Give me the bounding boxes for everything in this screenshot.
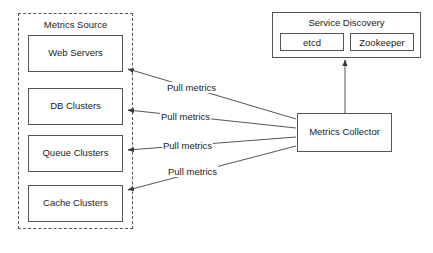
node-db-clusters[interactable]: DB Clusters xyxy=(28,88,123,125)
node-cache-clusters[interactable]: Cache Clusters xyxy=(28,185,123,222)
node-queue-clusters[interactable]: Queue Clusters xyxy=(28,135,123,172)
node-etcd[interactable]: etcd xyxy=(280,33,344,51)
diagram-canvas: Metrics Source Web Servers DB Clusters Q… xyxy=(0,0,433,253)
edge-label-pull-metrics-3: Pull metrics xyxy=(162,140,213,151)
node-web-servers-label: Web Servers xyxy=(48,48,103,58)
edge-label-pull-metrics-2: Pull metrics xyxy=(160,111,211,122)
node-web-servers[interactable]: Web Servers xyxy=(28,35,123,72)
edge-collector-to-web-servers xyxy=(128,69,296,119)
metrics-source-title: Metrics Source xyxy=(19,19,132,30)
node-zookeeper-label: Zookeeper xyxy=(359,37,404,48)
node-queue-clusters-label: Queue Clusters xyxy=(42,148,108,158)
edge-label-pull-metrics-1: Pull metrics xyxy=(166,82,217,93)
node-cache-clusters-label: Cache Clusters xyxy=(43,198,108,208)
service-discovery-title: Service Discovery xyxy=(273,17,420,28)
node-metrics-collector[interactable]: Metrics Collector xyxy=(297,113,392,152)
node-zookeeper[interactable]: Zookeeper xyxy=(350,33,414,51)
edge-collector-to-db-clusters xyxy=(128,110,296,128)
node-etcd-label: etcd xyxy=(303,37,321,48)
edge-label-pull-metrics-4: Pull metrics xyxy=(167,166,218,177)
service-discovery-box[interactable]: Service Discovery etcd Zookeeper xyxy=(272,12,421,58)
node-db-clusters-label: DB Clusters xyxy=(50,101,101,111)
node-metrics-collector-label: Metrics Collector xyxy=(309,127,380,137)
